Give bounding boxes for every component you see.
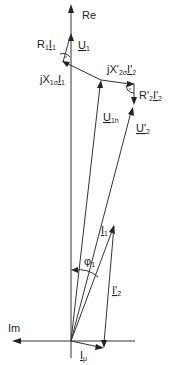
u2-label: U'2 [136, 122, 150, 135]
phasor-u1h [71, 80, 103, 341]
phasor-jx1s-i1 [62, 61, 101, 80]
phasor-imu [71, 341, 104, 350]
u1-label: U1 [78, 39, 90, 52]
jx2s-i2-label: jX'2σI'2 [106, 63, 136, 76]
phasor-jx2s-i2 [101, 80, 135, 87]
u1h-label: U1h [103, 111, 119, 124]
re-axis [68, 4, 74, 358]
jx1s-i1-label: jX1σI1 [39, 73, 65, 86]
phasor-r2i2 [126, 84, 137, 105]
re-axis-label: Re [82, 9, 96, 21]
phasor-r1i1 [60, 37, 70, 62]
imu-label: Iμ [80, 349, 87, 363]
phasor-diagram: Re Im U1 R1I1 jX1σI1 jX'2σI'2 R'2I'2 U1 [0, 0, 175, 365]
i2-label: I'2 [112, 284, 121, 297]
r2i2-label: R'2I'2 [139, 89, 162, 102]
r1i1-label: R1I1 [37, 38, 56, 51]
i1-label: I1 [101, 224, 108, 237]
im-axis [12, 338, 135, 344]
phi1-arc [71, 267, 98, 277]
im-axis-label: Im [8, 322, 20, 334]
